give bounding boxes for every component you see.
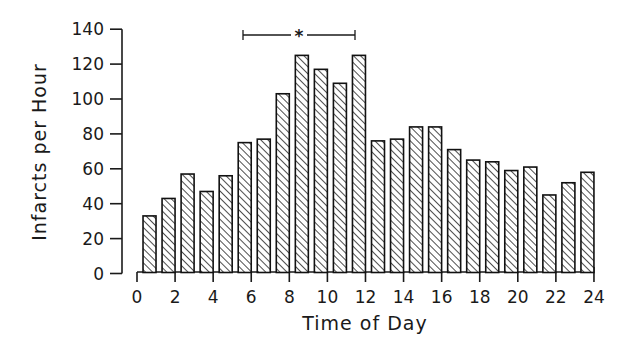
x-tick-label: 10 — [317, 287, 339, 307]
bar-20-21 — [524, 167, 537, 272]
bar-6-7 — [257, 139, 270, 272]
bar-1-2 — [162, 198, 175, 272]
x-tick-label: 8 — [284, 287, 295, 307]
bar-7-8 — [276, 94, 289, 273]
y-tick-label: 20 — [82, 229, 104, 249]
bar-5-6 — [238, 143, 251, 273]
x-tick-label: 24 — [583, 287, 605, 307]
bar-16-17 — [448, 150, 461, 273]
x-tick-label: 16 — [431, 287, 453, 307]
bar-12-13 — [372, 141, 385, 273]
significance-annotation: * — [243, 26, 355, 46]
bar-23-24 — [581, 172, 594, 272]
infarcts-by-hour-chart: 020406080100120140 024681012141618202224… — [0, 0, 632, 354]
bar-17-18 — [467, 160, 480, 272]
bar-9-10 — [314, 69, 327, 272]
y-tick-label: 60 — [82, 159, 104, 179]
bar-11-12 — [352, 55, 365, 272]
x-tick-label: 4 — [208, 287, 219, 307]
x-tick-label: 6 — [246, 287, 257, 307]
x-tick-label: 0 — [132, 287, 143, 307]
y-axis: 020406080100120140 — [72, 19, 122, 283]
y-tick-label: 0 — [93, 264, 104, 284]
x-tick-label: 12 — [355, 287, 377, 307]
x-tick-label: 18 — [469, 287, 491, 307]
x-tick-label: 22 — [545, 287, 567, 307]
y-axis-title: Infarcts per Hour — [28, 63, 50, 241]
y-tick-label: 80 — [82, 124, 104, 144]
x-tick-label: 14 — [393, 287, 415, 307]
y-tick-label: 140 — [72, 19, 104, 39]
bar-3-4 — [200, 191, 213, 272]
y-tick-label: 40 — [82, 194, 104, 214]
significance-asterisk: * — [295, 26, 304, 46]
bar-2-3 — [181, 174, 194, 272]
bar-22-23 — [562, 183, 575, 273]
chart-canvas: 020406080100120140 024681012141618202224… — [0, 0, 632, 354]
bar-21-22 — [543, 195, 556, 273]
bar-8-9 — [295, 55, 308, 272]
y-tick-label: 120 — [72, 54, 104, 74]
bar-14-15 — [410, 127, 423, 273]
bar-10-11 — [333, 83, 346, 272]
bar-18-19 — [486, 162, 499, 273]
bar-4-5 — [219, 176, 232, 273]
x-tick-label: 2 — [170, 287, 181, 307]
x-tick-label: 20 — [507, 287, 529, 307]
y-tick-label: 100 — [72, 89, 104, 109]
bar-series — [143, 55, 594, 272]
x-axis-title: Time of Day — [301, 312, 427, 334]
bar-15-16 — [429, 127, 442, 273]
bar-13-14 — [391, 139, 404, 272]
bar-19-20 — [505, 171, 518, 273]
bar-0-1 — [143, 216, 156, 273]
